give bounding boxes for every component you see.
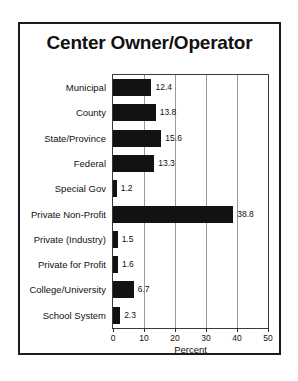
tick-label-50: 50 (263, 333, 272, 343)
tick-label-20: 20 (170, 333, 179, 343)
category-label: School System (43, 307, 106, 324)
tick-mark-20 (175, 328, 176, 332)
bar-row: Private Non-Profit38.8 (113, 202, 268, 227)
tick-mark-10 (144, 328, 145, 332)
tick-label-30: 30 (201, 333, 210, 343)
tick-label-10: 10 (139, 333, 148, 343)
bar-row: Federal13.3 (113, 151, 268, 176)
bar-value-label: 15.6 (161, 130, 182, 147)
category-label: County (76, 104, 106, 121)
bar (113, 79, 151, 96)
tick-mark-30 (206, 328, 207, 332)
bar-row: State/Province15.6 (113, 126, 268, 151)
category-label: Federal (74, 155, 106, 172)
category-label: College/University (29, 281, 106, 298)
figure-frame: Center Owner/Operator Municipal12.4Count… (18, 22, 281, 355)
bar (113, 206, 233, 223)
tick-label-0: 0 (111, 333, 116, 343)
bar-chart-plot-area: Municipal12.4County13.8State/Province15.… (112, 74, 269, 329)
tick-label-40: 40 (232, 333, 241, 343)
bar-value-label: 2.3 (120, 307, 136, 324)
bar-value-label: 1.6 (118, 256, 134, 273)
tick-mark-0 (113, 328, 114, 332)
bar (113, 281, 134, 298)
bar-value-label: 1.2 (117, 180, 133, 197)
bar-row: Private for Profit1.6 (113, 252, 268, 277)
chart-title: Center Owner/Operator (20, 32, 279, 54)
bar-value-label: 13.8 (156, 104, 177, 121)
tick-mark-50 (268, 328, 269, 332)
bar-row: Private (Industry)1.5 (113, 227, 268, 252)
bar (113, 307, 120, 324)
tick-mark-40 (237, 328, 238, 332)
category-label: Private Non-Profit (31, 206, 106, 223)
x-axis-title: Percent (113, 344, 268, 355)
bar-value-label: 6.7 (134, 281, 150, 298)
bar-row: County13.8 (113, 100, 268, 125)
category-label: State/Province (44, 130, 106, 147)
category-label: Municipal (66, 79, 106, 96)
bar-row: School System2.3 (113, 303, 268, 328)
bar-value-label: 12.4 (151, 79, 172, 96)
bar-row: Municipal12.4 (113, 75, 268, 100)
bar-row: College/University6.7 (113, 277, 268, 302)
bar-value-label: 38.8 (233, 206, 254, 223)
category-label: Private (Industry) (34, 231, 106, 248)
category-label: Special Gov (55, 180, 106, 197)
bar-row: Special Gov1.2 (113, 176, 268, 201)
bar-value-label: 13.3 (154, 155, 175, 172)
bar (113, 104, 156, 121)
category-label: Private for Profit (38, 256, 106, 273)
bar (113, 155, 154, 172)
bar-value-label: 1.5 (118, 231, 134, 248)
bar (113, 130, 161, 147)
